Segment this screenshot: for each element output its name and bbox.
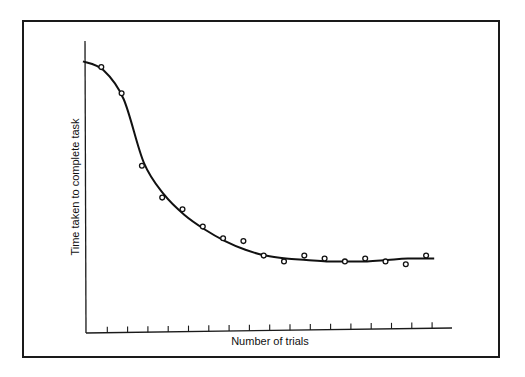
data-point — [160, 195, 165, 200]
data-point — [140, 163, 145, 168]
learning-curve-chart: Number of trials Time taken to complete … — [0, 0, 525, 377]
data-point — [383, 259, 388, 264]
x-axis-label: Number of trials — [231, 335, 309, 347]
data-point — [99, 65, 104, 70]
data-point — [180, 207, 185, 212]
chart-frame — [23, 21, 499, 357]
data-point — [119, 91, 124, 96]
x-axis — [86, 328, 452, 333]
data-point — [200, 224, 205, 229]
data-points — [99, 65, 429, 267]
data-point — [261, 253, 266, 258]
data-point — [302, 253, 307, 258]
data-point — [343, 259, 348, 264]
y-axis — [85, 41, 86, 333]
x-axis-ticks — [107, 322, 432, 332]
data-point — [221, 236, 226, 241]
data-point — [403, 262, 408, 267]
data-point — [241, 239, 246, 244]
data-point — [322, 256, 327, 261]
fitted-curve — [83, 61, 434, 261]
data-point — [424, 253, 429, 258]
data-point — [282, 259, 287, 264]
y-axis-label: Time taken to complete task — [69, 118, 81, 256]
data-point — [363, 256, 368, 261]
